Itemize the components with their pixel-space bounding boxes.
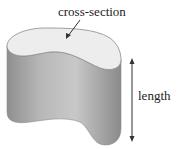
kidney-prism-figure bbox=[0, 0, 178, 149]
length-arrowhead-top bbox=[130, 58, 135, 64]
cross-section-label: cross-section bbox=[58, 4, 126, 20]
length-label: length bbox=[138, 88, 171, 104]
length-arrowhead-bottom bbox=[130, 136, 135, 142]
